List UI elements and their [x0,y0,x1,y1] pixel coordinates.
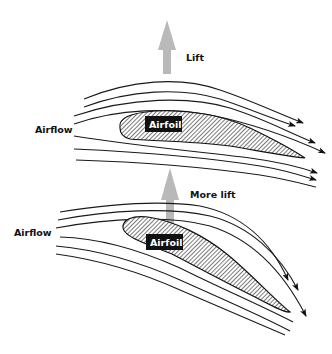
lift-arrow-icon [158,20,176,74]
airflow-label-2: Airflow [14,227,52,238]
more-lift-label: More lift [190,189,236,200]
airfoil-tilted-shape [123,217,290,313]
airfoil-label: Airfoil [149,119,181,130]
lift-label: Lift [186,52,204,63]
airflow-label: Airflow [35,124,73,135]
more-lift-arrow-icon [161,168,179,225]
panel-normal: Airfoil Lift Airflow [35,20,325,187]
airfoil-tilted-label: Airfoil [150,237,182,248]
airfoil-lift-diagram: Airfoil Lift Airflow Airfoil More lift A… [0,0,332,354]
panel-more-lift: Airfoil More lift Airflow [14,168,306,335]
